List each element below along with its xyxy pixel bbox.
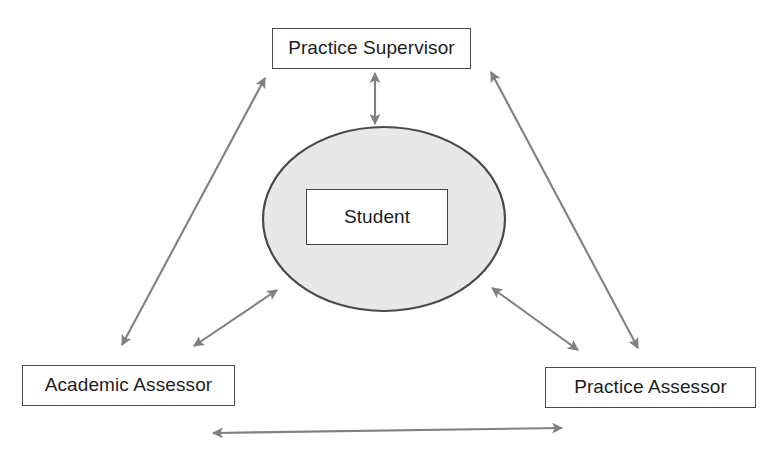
node-practice-assessor[interactable]: Practice Assessor [545,367,756,408]
node-student[interactable]: Student [306,189,448,245]
connector-practice-assessor-student [492,288,578,350]
node-practice-supervisor-label: Practice Supervisor [288,38,455,59]
node-practice-supervisor[interactable]: Practice Supervisor [272,28,471,69]
node-academic-assessor[interactable]: Academic Assessor [22,365,235,406]
node-practice-assessor-label: Practice Assessor [574,377,727,398]
connector-academic-practice-assessor [213,428,562,433]
connector-academic-supervisor [122,78,265,345]
diagram-canvas-root: Practice Supervisor Student Academic Ass… [0,0,781,460]
node-academic-assessor-label: Academic Assessor [45,375,213,396]
connector-academic-student [194,290,277,346]
connector-practice-assessor-supervisor [491,72,638,348]
node-student-label: Student [344,207,410,228]
